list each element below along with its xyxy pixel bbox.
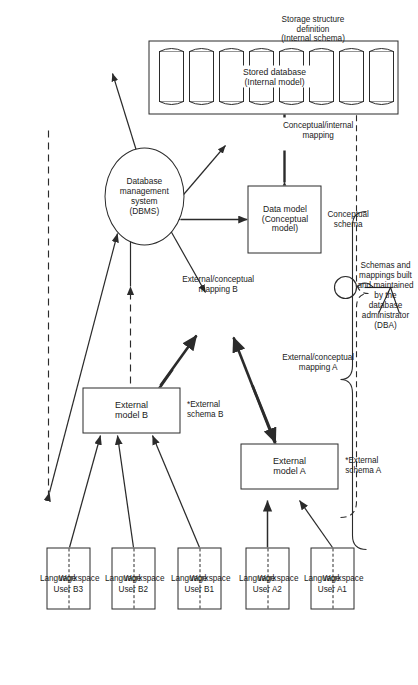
external-schema-a-caption-wrap: *External schema A [343,435,383,495]
user-a2-caption-wrap: User A2 [245,559,289,619]
user-a1-label: User A1 [317,584,346,594]
arrow-external-b-to-conceptual [160,335,196,385]
dba-note-wrap: Schemas and mappings built and maintaine… [330,235,418,355]
external-model-b-label: External model B [109,400,153,420]
external-conceptual-mapping-b-label: External/conceptual mapping B [182,274,254,293]
external-model-a-box[interactable]: External model A [240,443,338,489]
user-b1-caption-wrap: User B1 [177,559,221,619]
storage-structure-caption-wrap: Storage structure definition (Internal s… [288,0,338,89]
arrow-dbms-to-users [49,233,117,492]
arrow-external-a-to-conceptual [233,337,275,444]
user-b2-caption-wrap: User B2 [111,559,155,619]
conceptual-internal-mapping-label: Conceptual/internal mapping [283,120,354,139]
arrow-user-b3-external-b [69,435,100,547]
dba-note-label: Schemas and mappings built and maintaine… [329,260,418,330]
user-a1-caption-wrap: User A1 [310,559,354,619]
arrow-user-b1-external-b [152,435,199,547]
user-a2-label: User A2 [252,584,281,594]
arrow-user-a1-external-a [299,500,332,547]
external-schema-b-label: *External schema B [187,399,223,418]
data-model-box[interactable]: Data model (Conceptual model) [247,185,321,253]
external-schema-b-caption-wrap: *External schema B [185,379,225,439]
user-b2-label: User B2 [118,584,148,594]
storage-structure-definition-label: Storage structure definition (Internal s… [281,14,345,43]
external-schema-a-label: *External schema A [345,455,381,474]
external-model-a-label: External model A [267,456,311,476]
data-model-label: Data model (Conceptual model) [251,205,317,234]
mapping-b-caption-wrap: External/conceptual mapping B [196,241,240,327]
user-b1-label: User B1 [184,584,214,594]
stored-database-inner-label-wrap: Stored database (Internal model) [149,39,399,113]
stored-database-container[interactable]: Stored database (Internal model) [148,40,398,114]
external-model-b-box[interactable]: External model B [82,387,180,433]
conceptual-schema-label: Conceptual schema [327,209,368,228]
arrow-mapping-a-into-external-a [252,385,275,442]
user-b3-caption-wrap: User B3 [46,559,90,619]
user-b3-label: User B3 [53,584,83,594]
dbms-ellipse[interactable]: Database management system (DBMS) [104,147,184,245]
dbms-label: Database management system (DBMS) [106,176,182,216]
arrow-user-b2-external-b [117,435,133,547]
